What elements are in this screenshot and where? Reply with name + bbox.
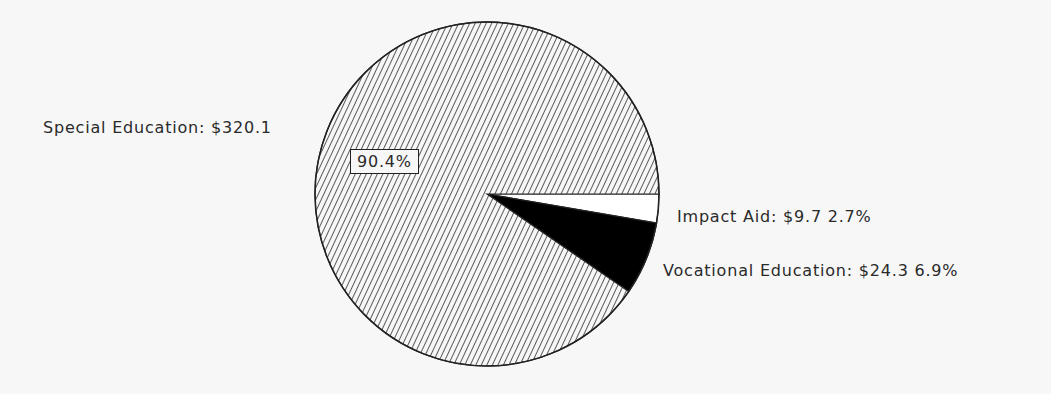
label-vocational-education: Vocational Education: $24.3 6.9% — [663, 261, 958, 280]
pie-slices — [315, 22, 659, 366]
pie-chart — [0, 0, 1051, 394]
label-special-education: Special Education: $320.1 — [43, 118, 272, 137]
label-special-education-percent: 90.4% — [350, 149, 419, 174]
label-impact-aid: Impact Aid: $9.7 2.7% — [677, 207, 872, 226]
slice-special-education — [315, 22, 659, 366]
